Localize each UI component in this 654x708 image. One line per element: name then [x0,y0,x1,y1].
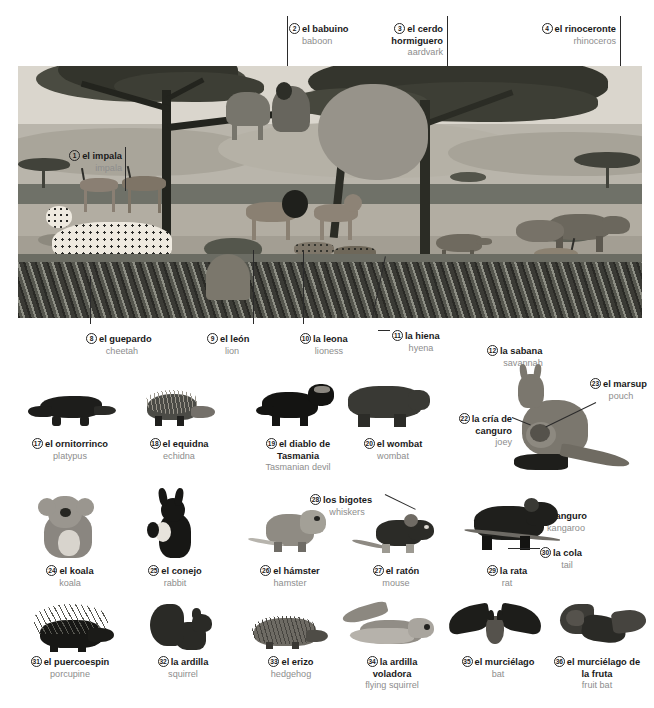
grid-label-mouse: 27el ratón mouse [340,560,452,589]
label-english: hamster [232,578,348,588]
label-spanish: el ratón [386,566,420,576]
callout-number: 22 [459,413,470,424]
rock-outcrop [318,84,428,180]
rhinoceros-body [516,220,564,242]
label-english: whiskers [310,507,384,517]
label-spanish: la rata [500,566,527,576]
label-spanish: la ardilla [171,657,209,667]
lioness-head [344,194,362,212]
label-spanish-line2: voladora [334,669,450,680]
grid-label-bat: 35el murciélago bat [440,651,556,680]
impala-leg [84,190,87,212]
grid-label-koala: 24el koala koala [10,560,130,589]
callout-number: 35 [462,656,473,667]
callout-number: 3 [394,23,405,34]
leader-line-hyena-elbow [378,330,390,331]
label-english: porcupine [6,669,134,679]
callout-number: 26 [260,565,271,576]
label-spanish: el ornitorrinco [45,439,108,449]
grid-label-porcupine: 31el puercoespin porcupine [6,651,134,680]
label-spanish: el diablo de [279,439,330,449]
bat-illustration [448,602,544,648]
callout-number: 36 [554,656,565,667]
callout-number: 25 [148,565,159,576]
lion-leg [286,218,290,240]
label-english: platypus [6,451,134,461]
label-english: rhinoceros [500,36,616,46]
callout-number: 24 [46,565,57,576]
lioness-leg [348,218,352,240]
label-english: cheetah [86,346,158,356]
label-spanish-line2: canguro [428,426,512,437]
callout-number: 18 [150,438,161,449]
label-spanish: el equidna [163,439,209,449]
callout-number: 19 [266,438,277,449]
grass-texture [18,262,642,318]
label-spanish: el rinoceronte [555,24,616,34]
lion-leg [252,218,256,240]
rhinoceros-head [602,216,630,234]
grid-label-pouch: 23el marsup pouch [590,373,652,402]
label-spanish: el murciélago de [567,657,640,667]
porcupine-illustration [26,606,122,650]
koala-illustration [30,496,110,560]
label-spanish: el conejo [161,566,201,576]
label-spanish: el koala [59,566,93,576]
grid-label-whiskers: 28los bigotes whiskers [310,489,384,518]
distant-tree [450,172,486,182]
grid-label-joey: 22la cría de canguro joey [428,408,512,448]
callout-number: 11 [392,330,403,341]
leader-line-cheetah [90,276,91,324]
grid-label-fruit-bat: 36el murciélago de la fruta fruit bat [540,651,654,691]
platypus-illustration [28,388,118,428]
label-english: hyena [392,343,450,353]
label-spanish: el guepardo [99,334,152,344]
callout-label-lion: 9el león lion [207,328,257,357]
callout-label-lioness: 10la leona lioness [300,328,358,357]
callout-label-hyena: 11la hiena hyena [392,325,450,354]
label-english: bat [440,669,556,679]
label-english: tail [540,560,594,570]
label-english: fruit bat [540,680,654,690]
rhinoceros-leg [596,236,603,252]
label-english: rat [452,578,562,588]
label-english: wombat [338,451,448,461]
label-english: mouse [340,578,452,588]
aardvark-snout [476,238,492,245]
grid-label-platypus: 17el ornitorrinco platypus [6,433,134,462]
fruit-bat-illustration [556,604,648,648]
label-spanish: la sabana [500,346,542,356]
callout-number: 4 [542,23,553,34]
label-spanish: la cola [553,548,582,558]
label-spanish-line2: la fruta [540,669,654,680]
label-english: squirrel [128,669,238,679]
savannah-illustration [18,66,642,318]
squirrel-illustration [148,604,220,650]
label-spanish: el hámster [273,566,320,576]
impala-leg [112,190,115,212]
callout-label-cheetah: 8el guepardo cheetah [86,328,158,357]
label-spanish: el león [220,334,249,344]
callout-number: 20 [364,438,375,449]
rabbit-illustration [143,492,203,560]
label-spanish: los bigotes [323,495,372,505]
label-english: lioness [300,346,358,356]
label-english: lion [207,346,257,356]
callout-number: 33 [268,656,279,667]
callout-number: 30 [540,547,551,558]
impala-leg [158,189,161,213]
callout-number: 1 [69,150,80,161]
flying-squirrel-illustration [342,604,442,650]
grid-label-hedgehog: 33el erizo hedgehog [236,651,346,680]
label-spanish: el murciélago [475,657,535,667]
callout-number: 28 [310,494,321,505]
leader-line-lioness [303,250,304,324]
callout-number: 32 [158,656,169,667]
leader-line-whiskers [385,494,416,510]
wombat-illustration [344,382,430,428]
callout-number: 23 [590,378,601,389]
grid-label-squirrel: 32la ardilla squirrel [128,651,238,680]
label-spanish: el cerdo [407,24,443,34]
hedgehog-illustration [248,614,332,650]
baboon-head [276,82,292,100]
